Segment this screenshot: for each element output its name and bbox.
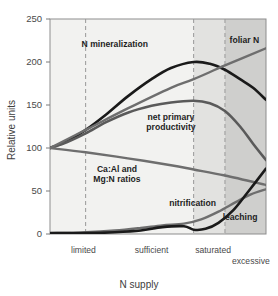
series-label-line: foliar N bbox=[230, 35, 260, 45]
series-label-line: productivity bbox=[146, 122, 195, 132]
y-axis-title: Relative units bbox=[6, 100, 17, 160]
y-tick-label: 150 bbox=[26, 99, 42, 110]
series-label-line: nitrification bbox=[169, 198, 216, 208]
chart-figure: 050100150200250 N mineralizationnet prim… bbox=[0, 0, 278, 296]
x-category-label-limited: limited bbox=[71, 245, 96, 255]
x-category-label-excessive: excessive bbox=[232, 256, 270, 266]
series-label-line: net primary bbox=[148, 112, 195, 122]
series-label-line: Ca:Al and bbox=[97, 164, 137, 174]
series-label-nitrification: nitrification bbox=[169, 198, 216, 208]
y-tick-label: 0 bbox=[37, 228, 42, 239]
series-label-leaching: leaching bbox=[223, 212, 258, 222]
series-label-foliar-n: foliar N bbox=[230, 35, 260, 45]
series-label-line: N mineralization bbox=[82, 39, 148, 49]
y-tick-label: 100 bbox=[26, 142, 42, 153]
x-category-label-sufficient: sufficient bbox=[135, 245, 169, 255]
series-label-ca-al-and-mg-n-ratios: Ca:Al andMg:N ratios bbox=[93, 164, 140, 184]
series-label-line: Mg:N ratios bbox=[93, 174, 140, 184]
y-tick-label: 50 bbox=[31, 185, 42, 196]
series-label-n-mineralization: N mineralization bbox=[82, 39, 148, 49]
nitrogen-saturation-line-chart: 050100150200250 N mineralizationnet prim… bbox=[0, 0, 278, 296]
series-label-line: leaching bbox=[223, 212, 258, 222]
series-label-net-primary-productivity: net primaryproductivity bbox=[146, 112, 195, 132]
y-tick-label: 250 bbox=[26, 13, 42, 24]
x-category-label-saturated: saturated bbox=[195, 245, 231, 255]
x-axis-title: N supply bbox=[120, 279, 159, 290]
y-tick-label: 200 bbox=[26, 56, 42, 67]
